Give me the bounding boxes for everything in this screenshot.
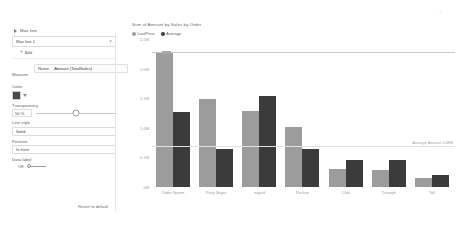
legend-item-0[interactable]: LastPrice (132, 31, 155, 36)
chart-title: Sum of Amount by Sales by Order (130, 22, 455, 27)
x-axis-label: Toll (415, 190, 449, 199)
reference-line-max[interactable] (152, 52, 455, 53)
color-field-group: Color (12, 84, 116, 100)
reference-line-label: Average Amount 0.68M (412, 140, 453, 145)
measure-table-name: Name (38, 66, 49, 71)
toggle-track (29, 166, 46, 167)
bar[interactable] (285, 127, 302, 187)
chevron-down-icon[interactable] (23, 94, 27, 97)
bar[interactable] (389, 160, 406, 187)
y-axis: 0M0.5M1.0M1.5M2.0M2.5M (130, 39, 150, 187)
bar[interactable] (432, 175, 449, 187)
close-icon[interactable]: × (109, 39, 112, 44)
transparency-control[interactable]: 50 % (12, 109, 116, 117)
bar-group[interactable] (156, 53, 190, 187)
bar[interactable] (415, 178, 432, 187)
y-axis-tick: 2.5M (140, 37, 149, 42)
color-swatch[interactable] (12, 91, 21, 100)
toggle-knob[interactable] (27, 164, 31, 168)
y-axis-tick: 0M (143, 185, 149, 190)
bar[interactable] (329, 169, 346, 187)
data-label-field-group: Data label Off (12, 157, 116, 169)
transparency-caption: Transparency (12, 103, 116, 108)
legend-item-1[interactable]: Average (161, 31, 182, 36)
bar[interactable] (242, 111, 259, 187)
chart-legend[interactable]: LastPrice Average (130, 31, 455, 36)
bar-group[interactable] (329, 160, 363, 187)
x-axis-label: Order Sperm (156, 190, 190, 199)
position-field-group: Position In front (12, 139, 116, 155)
analytics-pane: Max line Max line 1 × + Add Measure Name… (12, 28, 116, 214)
x-axis-label: Party Buyer (199, 190, 233, 199)
y-axis-tick: 1.0M (140, 125, 149, 130)
data-label-state: Off (18, 164, 24, 169)
chart-visual[interactable]: Sum of Amount by Sales by Order LastPric… (130, 22, 455, 214)
max-line-card-title: Max line (20, 28, 37, 33)
position-dropdown[interactable]: In front (12, 145, 116, 154)
measure-dropdown[interactable]: Name Amount (TotalSales) (34, 64, 128, 73)
bar-groups (152, 39, 455, 187)
plus-icon: + (20, 50, 23, 55)
bar[interactable] (372, 170, 389, 187)
y-axis-tick: 0.5M (140, 155, 149, 160)
max-line-instance-row[interactable]: Max line 1 × (12, 36, 116, 47)
bar-group[interactable] (415, 175, 449, 187)
line-style-caption: Line style (12, 120, 116, 125)
bar-group[interactable] (372, 160, 406, 187)
max-line-instance-label: Max line 1 (13, 39, 35, 44)
bar[interactable] (259, 96, 276, 187)
measure-field-group: Measure Name Amount (TotalSales) (12, 62, 116, 80)
data-label-toggle-row[interactable]: Off (12, 164, 116, 169)
bar[interactable] (156, 53, 173, 187)
bar[interactable] (346, 160, 363, 187)
bar[interactable] (302, 149, 319, 187)
bar[interactable] (199, 99, 216, 187)
color-picker[interactable] (12, 91, 116, 100)
line-style-dropdown[interactable]: Solid (12, 127, 116, 136)
bar[interactable] (216, 149, 233, 187)
x-axis-label: Re-hire (285, 190, 319, 199)
plot-area: 0M0.5M1.0M1.5M2.0M2.5M Average Amount 0.… (152, 39, 455, 187)
max-line-handle[interactable] (162, 51, 171, 54)
position-caption: Position (12, 139, 116, 144)
x-axis-label: regard (242, 190, 276, 199)
transparency-slider-track[interactable] (36, 113, 116, 114)
add-line-label: Add (25, 50, 32, 55)
bar[interactable] (173, 112, 190, 187)
data-label-toggle[interactable] (27, 164, 38, 168)
data-label-caption: Data label (12, 157, 116, 162)
revert-to-default-link[interactable]: Revert to default (78, 204, 108, 209)
transparency-value[interactable]: 50 % (12, 109, 32, 117)
x-axis-label: Triumph (372, 190, 406, 199)
reference-line-average[interactable] (152, 146, 455, 147)
color-caption: Color (12, 84, 116, 89)
bar-group[interactable] (285, 127, 319, 187)
revert-row: Revert to default (12, 194, 108, 212)
y-axis-tick: 1.5M (140, 96, 149, 101)
top-right-marker: • (440, 10, 441, 15)
chevron-right-icon[interactable] (14, 29, 17, 33)
panel-divider (12, 58, 116, 59)
legend-swatch-1 (161, 32, 165, 36)
legend-label-0: LastPrice (138, 31, 155, 36)
transparency-field-group: Transparency 50 % (12, 103, 116, 118)
max-line-card-header[interactable]: Max line (12, 28, 116, 36)
transparency-slider-thumb[interactable] (73, 110, 80, 117)
y-axis-tick: 2.0M (140, 66, 149, 71)
measure-field-name: Amount (TotalSales) (54, 66, 92, 71)
measure-caption: Measure (12, 72, 28, 77)
add-line-button[interactable]: + Add (12, 50, 116, 58)
x-axis: Order SpermParty BuyerregardRe-hireClubT… (152, 187, 455, 199)
bar-group[interactable] (199, 99, 233, 187)
line-style-field-group: Line style Solid (12, 120, 116, 136)
legend-label-1: Average (166, 31, 181, 36)
x-axis-label: Club (329, 190, 363, 199)
bar-group[interactable] (242, 96, 276, 187)
legend-swatch-0 (132, 32, 136, 36)
